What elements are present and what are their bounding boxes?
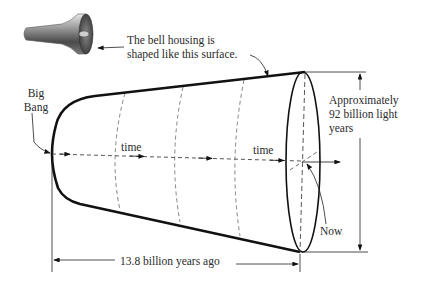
- size-label-1: Approximately: [329, 93, 399, 107]
- now-label: Now: [320, 224, 342, 238]
- caption-arrow: [98, 47, 124, 48]
- size-label-3: years: [329, 121, 353, 135]
- time-label-2: time: [253, 143, 273, 157]
- size-label-2: 92 billion light: [329, 107, 397, 121]
- big-bang-leader: [32, 113, 50, 153]
- ellipse-diagonal: [290, 150, 320, 170]
- caption-line-1: The bell housing is: [127, 33, 215, 47]
- bell-housing-icon: [24, 14, 93, 54]
- surface-leader-arrow: [250, 55, 268, 76]
- diagram-canvas: The bell housing is shaped like this sur…: [0, 0, 424, 288]
- big-bang-label-1: Big: [20, 86, 52, 100]
- ellipse-axis: [300, 74, 305, 252]
- age-label: 13.8 billion years ago: [120, 254, 220, 268]
- universe-surface-outline: [52, 72, 305, 252]
- time-label-1: time: [121, 140, 141, 154]
- big-bang-label-2: Bang: [20, 100, 52, 114]
- caption-line-2: shaped like this surface.: [127, 47, 238, 61]
